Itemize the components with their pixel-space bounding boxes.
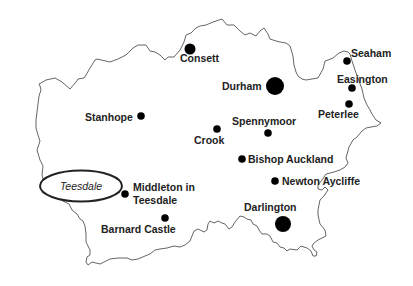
town-dot-durham[interactable]	[266, 77, 284, 95]
town-label-spennymoor: Spennymoor	[232, 115, 296, 127]
town-dot-barnard-castle[interactable]	[161, 214, 169, 222]
town-dot-middleton-in-teesdale[interactable]	[121, 190, 129, 198]
town-label-peterlee: Peterlee	[318, 108, 359, 120]
town-label-stanhope: Stanhope	[85, 111, 133, 123]
town-dot-newton-aycliffe[interactable]	[271, 177, 279, 185]
teesdale-region-label: Teesdale	[60, 180, 102, 192]
town-label-crook: Crook	[194, 134, 224, 146]
town-dot-seaham[interactable]	[343, 57, 351, 65]
town-label-darlington: Darlington	[244, 201, 297, 213]
town-dot-bishop-auckland[interactable]	[238, 155, 246, 163]
town-label-bishop-auckland: Bishop Auckland	[248, 153, 333, 165]
town-dot-crook[interactable]	[213, 125, 221, 133]
town-label-easington: Easington	[337, 73, 388, 85]
town-dot-spennymoor[interactable]	[264, 129, 272, 137]
town-label-barnard-castle: Barnard Castle	[101, 223, 176, 235]
county-map: Teesdale Consett Durham Seaham Easington…	[0, 0, 413, 286]
town-label-middleton-line1: Middleton in	[133, 181, 195, 193]
town-label-middleton-line2: Teesdale	[133, 194, 177, 206]
town-dot-peterlee[interactable]	[345, 100, 353, 108]
town-dot-darlington[interactable]	[275, 216, 291, 232]
town-dot-stanhope[interactable]	[137, 112, 145, 120]
town-label-durham: Durham	[222, 80, 262, 92]
town-label-consett: Consett	[180, 52, 220, 64]
town-dot-easington[interactable]	[348, 84, 356, 92]
town-label-newton-aycliffe: Newton Aycliffe	[282, 175, 360, 187]
town-label-seaham: Seaham	[351, 47, 391, 59]
